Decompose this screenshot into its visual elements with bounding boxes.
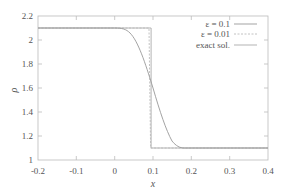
y-tick-label: 2.2 <box>22 11 33 21</box>
y-tick-labels: 1 1.2 1.4 1.6 1.8 2 2.2 <box>22 11 34 165</box>
y-tick-label: 1.2 <box>22 131 33 141</box>
x-tick-labels: -0.2 -0.1 0 0.1 0.2 0.3 0.4 <box>31 166 274 176</box>
y-tick-label: 1.6 <box>22 83 34 93</box>
series-epsilon-0-1 <box>38 28 268 148</box>
y-tick-label: 1.8 <box>22 59 34 69</box>
line-chart: -0.2 -0.1 0 0.1 0.2 0.3 0.4 1 1.2 1.4 1.… <box>0 0 287 195</box>
x-tick-label: 0.4 <box>262 166 274 176</box>
x-tick-label: 0.2 <box>186 166 197 176</box>
y-tick-label: 2 <box>29 35 34 45</box>
x-tick-label: 0.3 <box>224 166 236 176</box>
legend-label-exact-solution: exact sol. <box>196 40 230 50</box>
x-tick-label: 0 <box>112 166 117 176</box>
legend: ε = 0.1 ε = 0.01 exact sol. <box>196 19 257 50</box>
y-tick-label: 1.4 <box>22 107 34 117</box>
legend-label-epsilon-0-01: ε = 0.01 <box>201 29 230 39</box>
y-tick-label: 1 <box>29 155 34 165</box>
x-tick-label: 0.1 <box>147 166 158 176</box>
x-axis-label: x <box>150 178 156 189</box>
x-tick-label: -0.1 <box>69 166 83 176</box>
legend-label-epsilon-0-1: ε = 0.1 <box>205 19 230 29</box>
y-axis-label: ρ <box>8 87 19 93</box>
x-tick-label: -0.2 <box>31 166 45 176</box>
